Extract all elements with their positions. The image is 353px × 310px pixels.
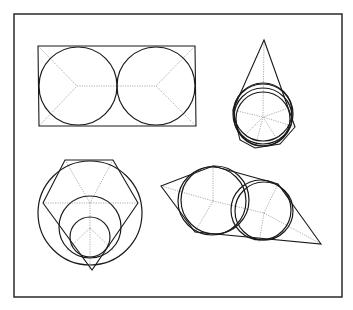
panel-kite-nested-circles xyxy=(233,40,295,148)
construction-line xyxy=(263,40,264,117)
panel-skewed-quadrilateral-two-circles xyxy=(161,166,321,244)
inscribed-circle xyxy=(181,166,249,234)
inscribed-circle xyxy=(235,182,293,240)
construction-line xyxy=(264,184,278,213)
panel-pentagon-two-circles xyxy=(38,160,142,270)
construction-line xyxy=(161,186,213,201)
diagram-canvas xyxy=(0,0,353,310)
panel-rectangle-two-circles xyxy=(38,46,196,126)
diagram-frame xyxy=(14,14,342,297)
construction-line xyxy=(263,109,286,117)
construction-line xyxy=(195,201,213,232)
diagram-panels xyxy=(38,40,321,270)
construction-line xyxy=(213,201,264,213)
